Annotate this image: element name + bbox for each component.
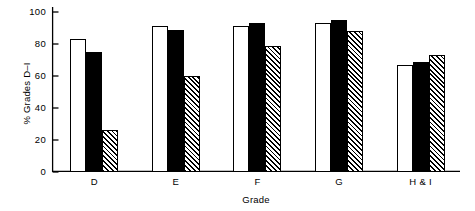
bar <box>265 46 281 172</box>
bar <box>315 23 331 172</box>
bar <box>152 26 168 172</box>
bar <box>233 26 249 172</box>
bar <box>168 30 184 172</box>
bar <box>102 130 118 172</box>
bar-group <box>315 12 363 172</box>
x-axis-title: Grade <box>52 194 460 205</box>
x-tick-label: D <box>91 176 98 187</box>
y-tick-label: 40 <box>20 103 46 113</box>
bar <box>70 39 86 172</box>
bar <box>413 62 429 172</box>
x-tick-label: F <box>254 176 260 187</box>
bar <box>397 65 413 172</box>
bar <box>429 55 445 172</box>
y-tick-label: 100 <box>20 7 46 17</box>
y-tick-label: 20 <box>20 135 46 145</box>
bar <box>347 31 363 172</box>
y-axis-tick-labels: 020406080100 <box>20 0 46 211</box>
y-tick-label: 80 <box>20 39 46 49</box>
bar <box>184 76 200 172</box>
bar <box>331 20 347 172</box>
bar-chart-figure: % Grades D–I 020406080100 DEFGH & I Grad… <box>0 0 475 211</box>
x-tick-label: G <box>335 176 343 187</box>
bar <box>249 23 265 172</box>
bar-group <box>233 12 281 172</box>
x-tick-label: H & I <box>409 176 432 187</box>
bars-layer <box>52 12 460 172</box>
bar <box>86 52 102 172</box>
x-tick-label: E <box>173 176 180 187</box>
y-tick-label: 0 <box>20 167 46 177</box>
bar-group <box>70 12 118 172</box>
plot-area <box>52 12 460 172</box>
x-axis-tick-labels: DEFGH & I <box>52 176 460 192</box>
bar-group <box>397 12 445 172</box>
bar-group <box>152 12 200 172</box>
y-tick-label: 60 <box>20 71 46 81</box>
